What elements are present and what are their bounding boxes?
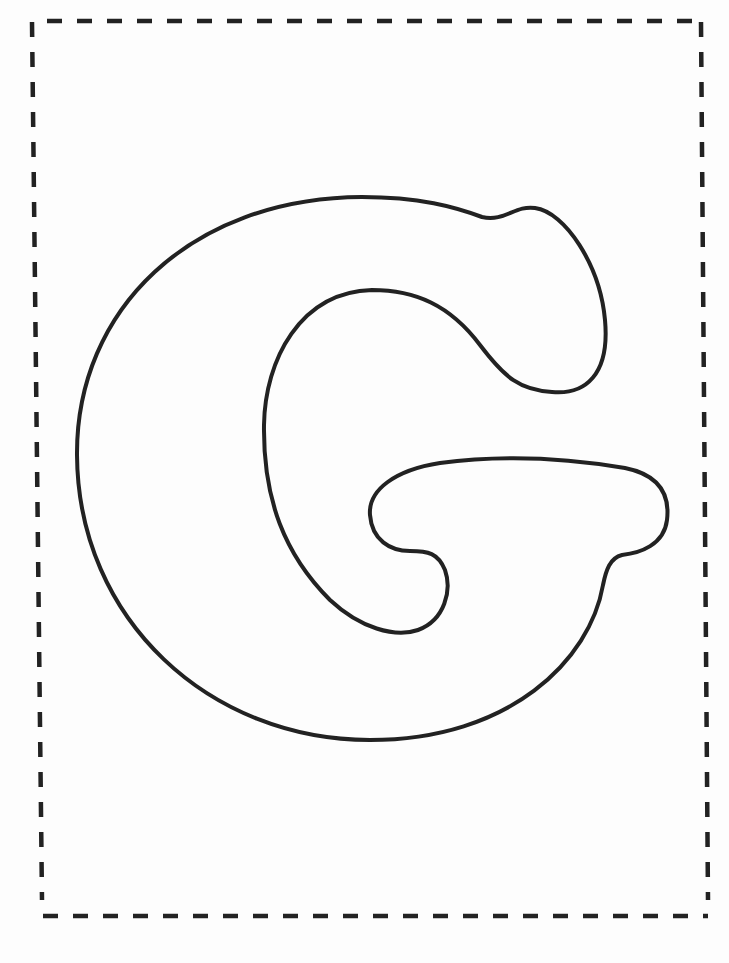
coloring-page: G: [0, 0, 729, 963]
letter-g-outline: [77, 197, 668, 740]
coloring-artwork: [0, 0, 729, 963]
dashed-cut-border: [32, 21, 708, 916]
border-left: [32, 22, 42, 900]
border-right: [701, 22, 708, 900]
